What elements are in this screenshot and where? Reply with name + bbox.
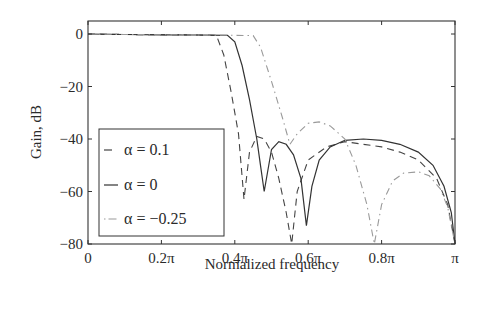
y-tick-label: −80	[60, 236, 83, 252]
x-axis-label: Normalized frequency	[205, 256, 340, 272]
x-tick-label: 0	[84, 250, 92, 266]
x-tick-label: π	[451, 250, 459, 266]
y-tick-label: −20	[60, 79, 83, 95]
y-tick-label: 0	[76, 26, 84, 42]
legend: α = 0.1α = 0α = −0.25	[99, 129, 224, 236]
x-tick-label: 0.8π	[368, 250, 395, 266]
legend-label-1: α = 0	[124, 176, 157, 193]
y-tick-label: −60	[60, 184, 83, 200]
x-tick-label: 0.2π	[148, 250, 175, 266]
y-axis-label: Gain, dB	[28, 105, 44, 159]
chart: 00.2π0.4π0.6π0.8ππ0−20−40−60−80 Normaliz…	[0, 0, 481, 309]
y-tick-label: −40	[60, 131, 83, 147]
legend-label-0: α = 0.1	[124, 141, 169, 158]
legend-label-2: α = −0.25	[124, 210, 186, 227]
